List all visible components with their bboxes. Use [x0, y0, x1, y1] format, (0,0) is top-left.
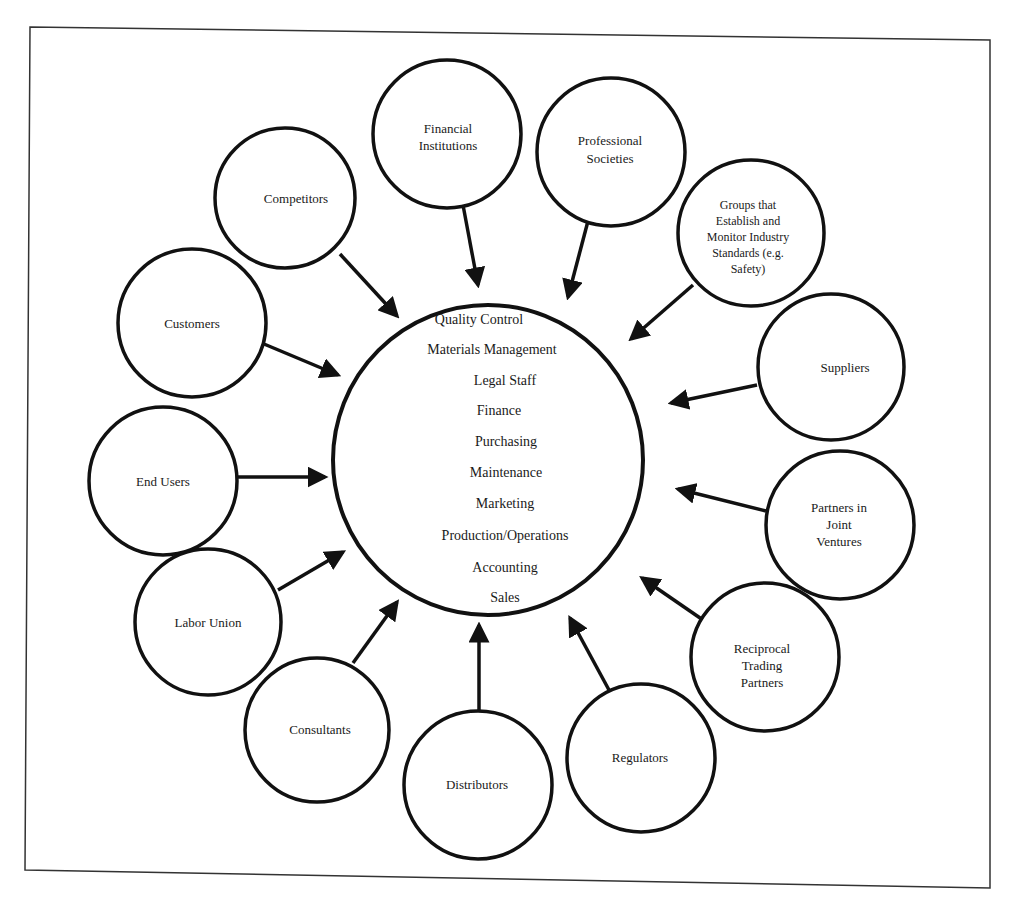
node-circle — [691, 583, 839, 731]
node-label: Safety) — [731, 262, 766, 276]
arrow-suppliers — [671, 385, 757, 403]
node-suppliers: Suppliers — [758, 294, 904, 440]
arrow-regulators — [570, 618, 609, 690]
node-customers: Customers — [118, 249, 266, 397]
hub-function-label: Purchasing — [475, 434, 537, 449]
node-label: Partners in — [811, 500, 867, 515]
node-label: Distributors — [446, 777, 508, 792]
node-label: Groups that — [720, 198, 777, 212]
node-label: End Users — [136, 474, 190, 489]
arrow-reciprocal-trading-partners — [642, 578, 703, 620]
node-competitors: Competitors — [215, 128, 355, 268]
node-label: Trading — [742, 658, 783, 673]
hub-function-label: Production/Operations — [442, 528, 569, 543]
hub-function-label: Sales — [490, 590, 520, 605]
node-label: Regulators — [612, 750, 668, 765]
node-label: Competitors — [264, 191, 328, 206]
hub-function-label: Legal Staff — [474, 373, 537, 388]
node-professional-societies: Professional Societies — [537, 78, 685, 226]
arrow-consultants — [353, 602, 397, 663]
node-label: Reciprocal — [734, 641, 791, 656]
node-financial-institutions: Financial Institutions — [373, 60, 521, 208]
hub-function-label: Accounting — [472, 560, 537, 575]
node-regulators: Regulators — [567, 684, 715, 832]
arrow-joint-venture-partners — [678, 489, 766, 511]
hub-function-label: Marketing — [476, 496, 534, 511]
node-joint-venture-partners: Partners in Joint Ventures — [766, 451, 914, 599]
hub-function-label: Quality Control — [435, 312, 523, 327]
hub-function-label: Maintenance — [470, 465, 542, 480]
node-reciprocal-trading-partners: Reciprocal Trading Partners — [691, 583, 839, 731]
node-labor-union: Labor Union — [135, 549, 281, 695]
hub-function-label: Materials Management — [427, 342, 557, 357]
node-label: Establish and — [716, 214, 780, 228]
node-label: Standards (e.g. — [712, 246, 784, 260]
node-label: Joint — [826, 517, 852, 532]
node-label: Professional — [578, 133, 643, 148]
hub-organization: Quality Control Materials Management Leg… — [333, 305, 643, 615]
node-label: Partners — [741, 675, 784, 690]
node-distributors: Distributors — [404, 711, 552, 859]
node-standards-groups: Groups that Establish and Monitor Indust… — [678, 160, 824, 306]
hub-function-label: Finance — [477, 403, 521, 418]
node-label: Financial — [424, 121, 473, 136]
node-label: Suppliers — [820, 360, 869, 375]
node-consultants: Consultants — [245, 658, 389, 802]
node-end-users: End Users — [89, 407, 237, 555]
stakeholder-diagram: Quality Control Materials Management Leg… — [0, 0, 1009, 909]
arrow-competitors — [340, 254, 397, 316]
arrow-professional-societies — [568, 221, 588, 297]
node-label: Ventures — [816, 534, 862, 549]
node-label: Labor Union — [175, 615, 242, 630]
node-label: Customers — [164, 316, 220, 331]
node-label: Societies — [587, 151, 634, 166]
arrow-standards-groups — [631, 285, 693, 339]
node-label: Monitor Industry — [707, 230, 789, 244]
arrow-customers — [264, 344, 338, 375]
node-label: Institutions — [419, 138, 478, 153]
arrow-labor-union — [278, 552, 343, 590]
arrow-financial-institutions — [463, 205, 478, 285]
node-label: Consultants — [289, 722, 350, 737]
